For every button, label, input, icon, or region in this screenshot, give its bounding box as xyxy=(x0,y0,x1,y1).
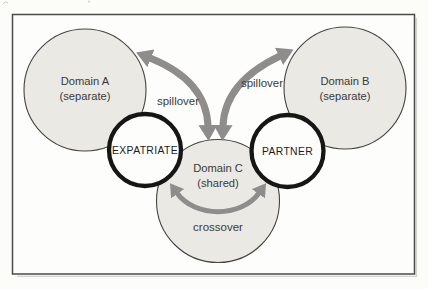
domain-diagram: Domain A (separate) Domain B (separate) … xyxy=(0,0,428,289)
domain-c-label-line2: (shared) xyxy=(197,177,239,189)
spillover-right-label: spillover xyxy=(241,77,283,89)
crop-artifact xyxy=(3,2,8,4)
crossover-label: crossover xyxy=(193,221,243,233)
domain-b-label-line2: (separate) xyxy=(320,90,371,102)
spillover-left-label: spillover xyxy=(157,95,199,107)
partner-label: PARTNER xyxy=(262,146,313,157)
domain-c-label-line1: Domain C xyxy=(193,162,243,174)
domain-a-label-line2: (separate) xyxy=(60,90,111,102)
crop-artifact xyxy=(88,1,90,3)
domain-b-label-line1: Domain B xyxy=(320,75,369,87)
domain-a-label-line1: Domain A xyxy=(61,75,110,87)
expatriate-label: EXPATRIATE xyxy=(112,145,178,156)
